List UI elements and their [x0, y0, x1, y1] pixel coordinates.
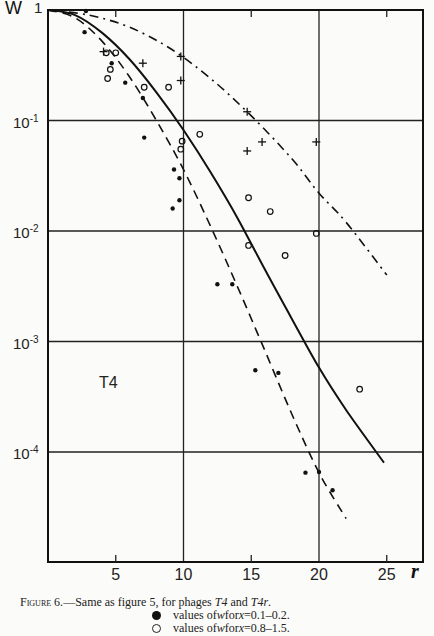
open-point — [113, 50, 119, 56]
open-point — [103, 50, 109, 56]
caption-phage-2: T4r — [251, 595, 268, 609]
dash-dot-curve — [48, 10, 387, 275]
open-point — [246, 195, 252, 201]
x-tick-label: 10 — [175, 566, 193, 584]
fitted-curves — [48, 10, 387, 519]
y-tick-label: 10-2 — [13, 223, 39, 241]
filled-point — [253, 368, 257, 372]
dashed-curve — [48, 10, 346, 519]
open-point — [105, 76, 111, 82]
filled-point — [170, 206, 174, 210]
filled-point — [123, 80, 127, 84]
y-axis-title: W — [5, 0, 22, 19]
filled-point — [82, 30, 86, 34]
open-point — [282, 253, 288, 259]
cross-point — [100, 48, 108, 56]
legend-var: w — [217, 621, 225, 636]
open-point — [141, 84, 147, 90]
caption-phage-1: T4 — [215, 595, 228, 609]
filled-point — [177, 176, 181, 180]
caption-text-2: and — [227, 595, 250, 609]
y-tick-label: 10-4 — [13, 444, 39, 462]
open-point — [108, 67, 114, 73]
x-tick-label: 5 — [111, 566, 120, 584]
filled-point — [109, 61, 113, 65]
filled-circle-icon — [152, 611, 161, 620]
cross-point — [258, 138, 266, 146]
open-point — [267, 209, 273, 215]
filled-point — [142, 135, 146, 139]
axes-frame — [48, 10, 423, 562]
filled-point — [303, 470, 307, 474]
x-tick-label: 20 — [310, 566, 328, 584]
y-tick-label: 1 — [34, 0, 42, 16]
filled-point — [276, 371, 280, 375]
open-point — [166, 84, 172, 90]
filled-point — [215, 282, 219, 286]
x-axis-title: r — [411, 560, 419, 583]
cross-point — [243, 147, 251, 155]
legend-item-open: values of w for x=0.8–1.5. — [152, 621, 290, 636]
open-point — [197, 132, 203, 138]
filled-point — [141, 96, 145, 100]
caption-text-3: . — [268, 595, 271, 609]
filled-point — [84, 9, 88, 13]
open-point — [178, 146, 184, 152]
legend-text: values of — [173, 621, 217, 636]
filled-point — [230, 282, 234, 286]
x-tick-label: 25 — [378, 566, 396, 584]
legend-text: =0.8–1.5. — [244, 621, 290, 636]
filled-point — [177, 198, 181, 202]
caption-figure-number: Figure 6. — [20, 595, 63, 609]
legend-text: for — [225, 621, 239, 636]
panel-label: T4 — [99, 374, 118, 392]
y-tick-label: 10-1 — [13, 113, 39, 131]
x-tick-label: 15 — [242, 566, 260, 584]
y-tick-label: 10-3 — [13, 334, 39, 352]
open-point — [357, 386, 363, 392]
open-point — [246, 243, 252, 249]
filled-point — [317, 470, 321, 474]
filled-point — [330, 488, 334, 492]
plot-frame — [48, 10, 423, 562]
open-circle-icon — [152, 624, 161, 633]
cross-point — [139, 59, 147, 67]
caption-text: —Same as figure 5, for phages — [63, 595, 215, 609]
filled-point — [172, 167, 176, 171]
gridlines — [48, 10, 423, 562]
